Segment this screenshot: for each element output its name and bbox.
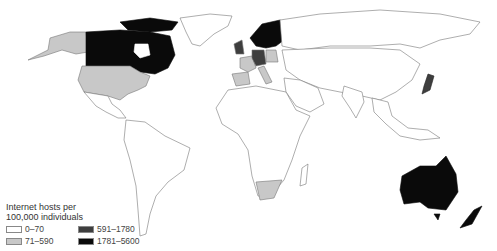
region-alaska (28, 32, 88, 60)
legend-swatch (6, 238, 22, 245)
legend-swatch (78, 238, 94, 245)
region-new-zealand (460, 206, 482, 228)
legend-items: 0–70 591–1780 71–590 1781–5600 (6, 224, 158, 246)
legend-label: 0–70 (25, 224, 44, 234)
region-italy (258, 66, 272, 84)
legend-swatch (6, 226, 22, 233)
region-south-africa (256, 180, 282, 200)
region-spain (232, 72, 250, 86)
legend-item-71-590: 71–590 (6, 236, 78, 246)
region-japan (422, 74, 434, 94)
legend-item-591-1780: 591–1780 (78, 224, 158, 234)
region-madagascar (300, 164, 308, 186)
region-canada-islands (120, 18, 178, 32)
legend-swatch (78, 226, 94, 233)
region-southeast-asia (372, 98, 440, 140)
region-tasmania (434, 214, 440, 220)
map-legend: Internet hosts per 100,000 individuals 0… (6, 202, 158, 246)
legend-label: 71–590 (25, 236, 53, 246)
legend-item-0-70: 0–70 (6, 224, 78, 234)
legend-label: 1781–5600 (97, 236, 140, 246)
legend-title-line1: Internet hosts per (6, 202, 158, 212)
legend-title-line2: 100,000 individuals (6, 212, 158, 222)
legend-title: Internet hosts per 100,000 individuals (6, 202, 158, 222)
region-greenland (180, 14, 232, 46)
region-uk (234, 40, 244, 54)
region-poland (266, 50, 278, 62)
region-australia (400, 156, 458, 210)
legend-label: 591–1780 (97, 224, 135, 234)
region-russia (280, 10, 480, 50)
legend-item-1781-5600: 1781–5600 (78, 236, 158, 246)
